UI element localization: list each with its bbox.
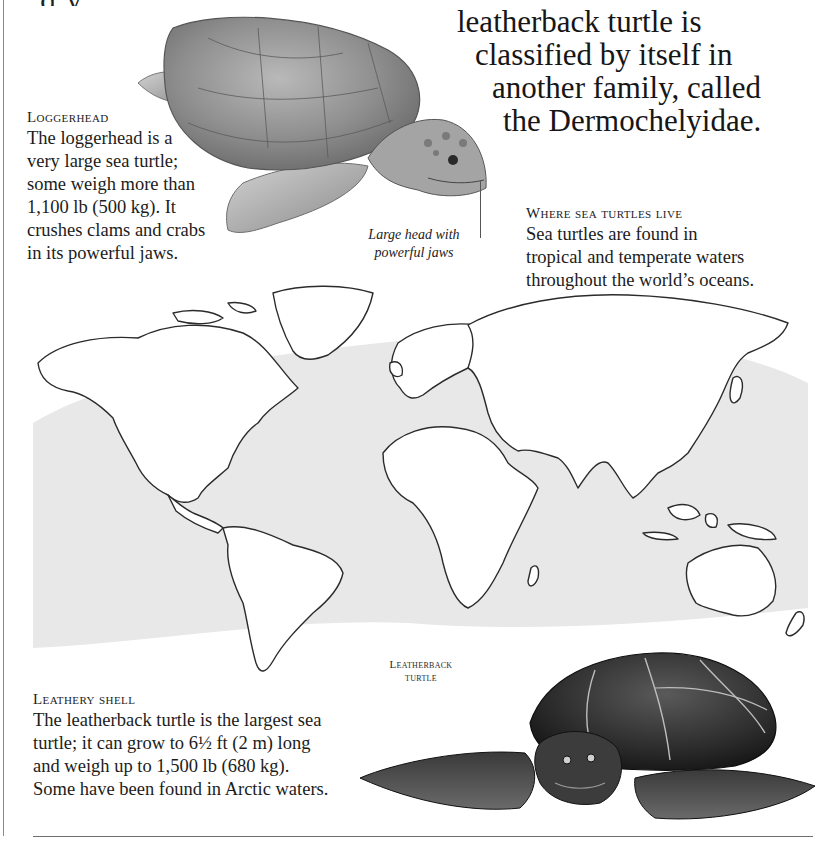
caption-line: very large sea turtle; [27, 150, 257, 173]
caption-line: tropical and temperate waters [526, 246, 816, 269]
caption-line: in its powerful jaws. [27, 242, 257, 265]
caption-line: turtle; it can grow to 6½ ft (2 m) long [33, 732, 393, 755]
leatherback-turtle-illustration [355, 648, 819, 823]
caption-heading: Loggerhead [27, 108, 257, 127]
label-leader-line [480, 180, 481, 238]
caption-line: some weigh more than [27, 173, 257, 196]
large-head-label: Large head with powerful jaws [354, 226, 474, 262]
caption-line: The loggerhead is a [27, 127, 257, 150]
leathery-shell-caption: Leathery shell The leatherback turtle is… [33, 690, 393, 801]
caption-line: 1,100 lb (500 kg). It [27, 196, 257, 219]
loggerhead-caption: Loggerhead The loggerhead is a very larg… [27, 108, 257, 265]
page-margin-rule [3, 0, 4, 836]
caption-heading: Leathery shell [33, 690, 393, 709]
intro-line: classified by itself in [455, 38, 815, 71]
page-bottom-rule [33, 836, 813, 837]
where-sea-turtles-live-caption: Where sea turtles live Sea turtles are f… [526, 204, 816, 292]
caption-line: Sea turtles are found in [526, 223, 816, 246]
caption-heading: Where sea turtles live [526, 204, 816, 223]
caption-line: Some have been found in Arctic waters. [33, 778, 393, 801]
world-range-map [28, 283, 808, 678]
intro-paragraph: leatherback turtle is classified by itse… [455, 5, 815, 137]
intro-line: the Dermochelyidae. [455, 104, 815, 137]
caption-line: The leatherback turtle is the largest se… [33, 709, 393, 732]
australia-outline [686, 545, 775, 616]
caption-line: crushes clams and crabs [27, 219, 257, 242]
cut-off-text-line: g y, [40, 0, 460, 6]
intro-line: leatherback turtle is [455, 5, 815, 38]
intro-line: another family, called [455, 71, 815, 104]
caption-line: and weigh up to 1,500 lb (680 kg). [33, 755, 393, 778]
